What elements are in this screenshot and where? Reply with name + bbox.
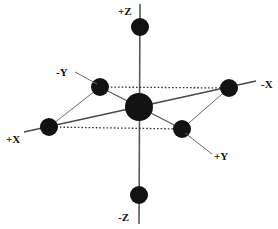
atom-minus-x: [220, 79, 238, 97]
atom-minus-y: [91, 78, 109, 96]
atom-minus-z: [130, 186, 148, 204]
label-plus-x: +X: [6, 133, 20, 145]
label-minus-z: -Z: [118, 211, 129, 223]
atom-center: [125, 93, 153, 121]
label-minus-x: -X: [261, 78, 273, 90]
atom-plus-z: [131, 18, 149, 36]
octahedron-figure: +Z -Z +X -X +Y -Y: [0, 0, 278, 229]
octahedron-diagram: +Z -Z +X -X +Y -Y: [0, 0, 278, 229]
label-plus-z: +Z: [118, 5, 132, 17]
atom-plus-x: [40, 118, 58, 136]
label-minus-y: -Y: [56, 66, 68, 78]
label-plus-y: +Y: [214, 150, 228, 162]
